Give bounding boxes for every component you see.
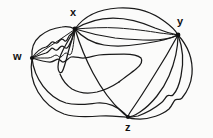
vertex-dot-x (73, 27, 78, 32)
vertex-label-y: y (177, 16, 183, 27)
edge-w-z-arc-2 (31, 58, 128, 117)
edge-interior-swoop (60, 74, 119, 93)
vertex-dot-y (176, 33, 181, 38)
vertex-label-x: x (70, 7, 76, 18)
vertex-label-w: w (13, 51, 22, 62)
edge-w-x-chord (32, 29, 75, 58)
edge-y-z-arc-3 (128, 35, 183, 117)
vertex-dot-z (126, 115, 130, 119)
vertex-label-z: z (125, 122, 131, 133)
edge-y-z-arc-1 (128, 35, 178, 117)
edge-y-z-arc-4 (128, 35, 192, 119)
vertex-dot-w (30, 56, 34, 60)
edge-w-z-arc-1 (32, 58, 128, 117)
edge-x-y-arc-5 (75, 29, 178, 46)
graph-figure: w x y z (0, 0, 213, 138)
